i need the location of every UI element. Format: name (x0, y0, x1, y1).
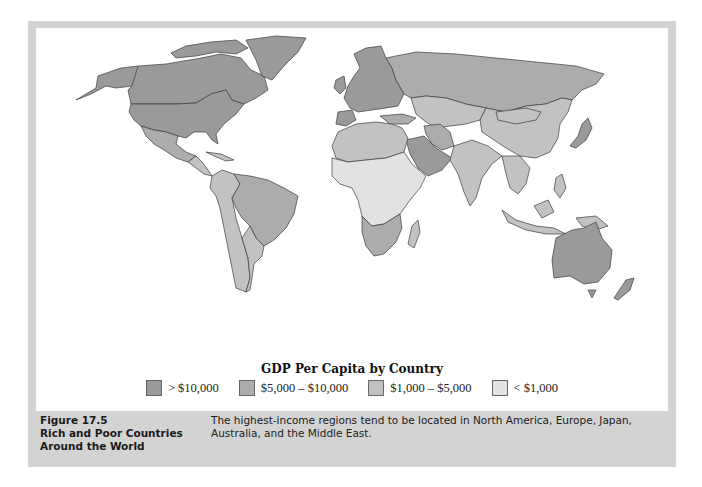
legend-swatch-lower-middle (368, 380, 384, 396)
region-madagascar (408, 220, 420, 248)
region-iberia (336, 110, 356, 126)
region-brazil (232, 174, 298, 246)
map-legend: > $10,000 $5,000 – $10,000 $1,000 – $5,0… (36, 380, 668, 396)
legend-label-high: > $10,000 (168, 381, 219, 396)
world-map (36, 28, 668, 358)
legend-item-lower-middle: $1,000 – $5,000 (368, 380, 471, 396)
figure-caption: Figure 17.5 Rich and Poor Countries Arou… (28, 411, 676, 467)
region-uk (334, 76, 346, 94)
legend-label-upper-middle: $5,000 – $10,000 (261, 381, 349, 396)
legend-item-low: < $1,000 (492, 380, 559, 396)
region-southeast-asia (502, 156, 530, 194)
region-central-america (188, 156, 212, 176)
caption-title: Figure 17.5 Rich and Poor Countries Arou… (40, 414, 210, 453)
legend-label-lower-middle: $1,000 – $5,000 (390, 381, 471, 396)
legend-label-low: < $1,000 (514, 381, 559, 396)
figure-number: Figure 17.5 (40, 414, 210, 427)
legend-swatch-low (492, 380, 508, 396)
legend-item-upper-middle: $5,000 – $10,000 (239, 380, 349, 396)
legend-item-high: > $10,000 (146, 380, 219, 396)
region-philippines (554, 174, 566, 198)
region-tasmania (588, 290, 596, 298)
legend-title: GDP Per Capita by Country (36, 362, 668, 376)
legend-swatch-high (146, 380, 162, 396)
region-sub-saharan-africa (332, 152, 426, 226)
legend-swatch-upper-middle (239, 380, 255, 396)
region-indonesia (502, 210, 566, 234)
region-canada-islands (171, 40, 248, 58)
region-caribbean (206, 152, 234, 161)
caption-text: The highest-income regions tend to be lo… (211, 414, 661, 440)
region-japan (570, 118, 592, 148)
figure-title-line1: Rich and Poor Countries (40, 427, 210, 440)
map-panel: GDP Per Capita by Country > $10,000 $5,0… (36, 28, 668, 411)
region-turkey (380, 114, 416, 124)
region-india (450, 140, 502, 206)
region-borneo (534, 200, 554, 218)
figure-title-line2: Around the World (40, 440, 210, 453)
region-new-zealand (614, 278, 634, 300)
region-canada (128, 54, 268, 104)
